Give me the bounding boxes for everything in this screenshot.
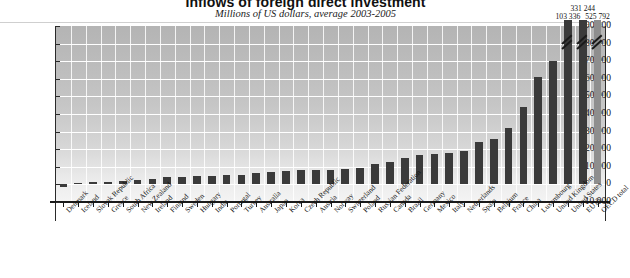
bar xyxy=(431,154,439,185)
gridline-vertical xyxy=(175,26,176,202)
bar xyxy=(371,164,379,184)
y-axis-tick-mark xyxy=(56,167,60,168)
bar xyxy=(564,20,572,184)
gridline-vertical xyxy=(516,26,517,202)
bar xyxy=(520,107,528,184)
y-axis-tick-mark xyxy=(56,44,60,45)
gridline-vertical xyxy=(293,26,294,202)
bar xyxy=(490,139,498,185)
gridline-horizontal xyxy=(56,79,605,80)
title-divider xyxy=(0,22,611,23)
bar xyxy=(312,170,320,184)
y-axis-tick-mark xyxy=(56,202,60,203)
y-axis-tick-mark xyxy=(56,132,60,133)
chart-subtitle: Millions of US dollars, average 2003-200… xyxy=(0,8,611,19)
bar xyxy=(193,176,201,184)
gridline-vertical xyxy=(323,26,324,202)
gridline-vertical xyxy=(471,26,472,202)
gridline-vertical xyxy=(190,26,191,202)
y-axis-tick-mark xyxy=(56,96,60,97)
bar xyxy=(445,153,453,185)
y-axis-tick-mark xyxy=(56,79,60,80)
bar xyxy=(297,170,305,184)
gridline-vertical xyxy=(368,26,369,202)
bar xyxy=(223,175,231,184)
gridline-horizontal xyxy=(56,44,605,45)
gridline-vertical xyxy=(457,26,458,202)
gridline-vertical xyxy=(427,26,428,202)
bar xyxy=(549,61,557,184)
y-axis-tick-mark xyxy=(56,149,60,150)
gridline-vertical xyxy=(397,26,398,202)
bar xyxy=(341,169,349,185)
gridline-vertical xyxy=(264,26,265,202)
gridline-vertical xyxy=(353,26,354,202)
y-axis-tick-mark xyxy=(56,114,60,115)
gridline-vertical xyxy=(531,26,532,202)
gridline-vertical xyxy=(546,26,547,202)
gridline-vertical xyxy=(86,26,87,202)
gridline-vertical xyxy=(101,26,102,202)
gridline-vertical xyxy=(279,26,280,202)
gridline-vertical xyxy=(115,26,116,202)
bar xyxy=(594,20,602,184)
gridline-vertical xyxy=(71,26,72,202)
bar xyxy=(104,182,112,185)
gridline-vertical xyxy=(308,26,309,202)
bar xyxy=(208,176,216,185)
bar xyxy=(267,172,275,184)
gridline-vertical xyxy=(442,26,443,202)
gridline-horizontal xyxy=(56,96,605,97)
y-axis-line xyxy=(55,26,56,221)
gridline-vertical xyxy=(249,26,250,202)
bar xyxy=(505,128,513,184)
gridline-vertical xyxy=(160,26,161,202)
bar xyxy=(178,177,186,184)
y-axis-tick-mark xyxy=(56,61,60,62)
gridline-vertical xyxy=(204,26,205,202)
bar xyxy=(74,183,82,184)
bar xyxy=(282,171,290,184)
gridline-horizontal xyxy=(56,61,605,62)
bar xyxy=(60,184,68,186)
bar xyxy=(252,173,260,185)
gridline-vertical xyxy=(338,26,339,202)
bar-value-label: 525 792 xyxy=(580,12,616,21)
gridline-vertical xyxy=(145,26,146,202)
gridline-vertical xyxy=(219,26,220,202)
bar xyxy=(238,175,246,185)
y-axis-tick-mark xyxy=(56,26,60,27)
bar xyxy=(89,182,97,185)
bar xyxy=(134,180,142,184)
gridline-vertical xyxy=(486,26,487,202)
bar xyxy=(534,77,542,184)
bar xyxy=(386,162,394,185)
gridline-vertical xyxy=(382,26,383,202)
gridline-vertical xyxy=(501,26,502,202)
bar xyxy=(356,168,364,185)
gridline-vertical xyxy=(234,26,235,202)
bar xyxy=(579,20,587,184)
bar xyxy=(475,142,483,184)
bar xyxy=(460,151,468,184)
